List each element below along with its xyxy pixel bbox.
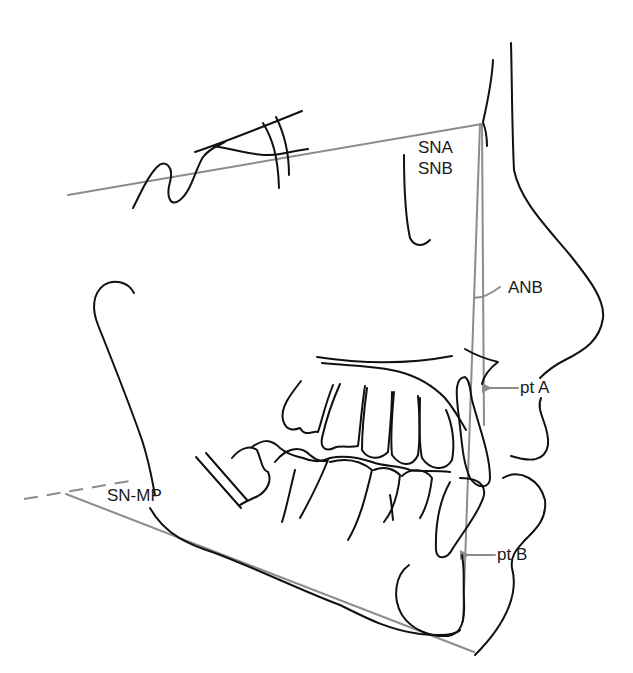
soft-tissue-lower-lip-chin [475,474,545,655]
palatal-plane-upper [317,356,452,362]
tracing-svg [0,0,633,673]
label-pt-b: pt B [497,545,527,564]
mandibular-lower-border [150,508,460,635]
upper-premolar-1 [322,384,365,450]
label-pt-a: pt A [520,378,549,397]
frontal-bone-outline [483,60,493,146]
lower-incisor [436,478,484,557]
lower-molar-2 [275,449,328,522]
soft-tissue-upper-lip [511,398,548,460]
anterior-nasal-spine [465,349,498,384]
lower-premolar-1 [374,468,400,522]
cephalometric-diagram: SNA SNB ANB pt A pt B SN-MP [0,0,633,673]
soft-tissue-forehead-nose [511,43,603,378]
pharyngeal-line-1 [196,457,241,508]
lower-premolar-2 [402,470,432,518]
lower-molar-1 [330,460,372,540]
label-sna: SNA [418,138,453,157]
mandibular-plane-line [66,494,474,652]
mandibular-ramus-condyle [94,282,155,495]
symphysis-outline [396,555,464,636]
lower-molar-3 [232,448,270,505]
anb-arc [474,287,500,298]
reference-lines [24,124,518,652]
upper-lateral [420,398,454,468]
nb-line [463,124,480,622]
upper-premolar-2 [362,388,392,458]
label-sn-mp: SN-MP [107,486,162,505]
upper-incisor [457,377,490,486]
label-snb: SNB [418,159,453,178]
clinoid-line-lower [213,146,308,155]
label-anb: ANB [508,278,543,297]
upper-canine [391,392,419,464]
